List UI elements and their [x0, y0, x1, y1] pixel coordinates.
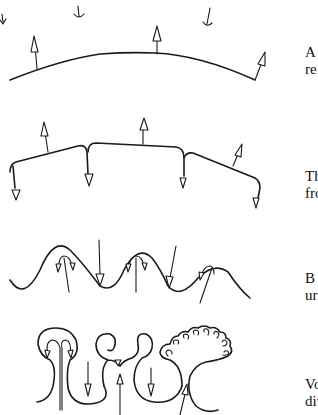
rising-split-arrow-icon [56, 256, 214, 303]
stage-2-cusped-surface: Th fro [0, 100, 318, 210]
stage-3-caption: B ur [305, 270, 318, 304]
stage-4-caption: Vo div [305, 376, 318, 410]
cusped-surface-drawing [0, 100, 318, 210]
caption-line: Th [305, 168, 318, 185]
incoming-arrow-icon [0, 6, 212, 25]
surface-curve [10, 146, 88, 174]
downward-arrow-icon [12, 174, 259, 208]
curl-icon [166, 329, 229, 356]
stage-1-smooth-surface: A re [0, 0, 318, 100]
smooth-surface-drawing [0, 0, 318, 100]
caption-line: B [305, 270, 318, 287]
caption-line: div [305, 393, 318, 410]
bubble-surface-drawing [0, 210, 318, 305]
surface-curve [10, 53, 255, 80]
mushroom-cap-3 [160, 326, 232, 411]
caption-line: fro [305, 185, 318, 202]
stage-2-caption: Th fro [305, 168, 318, 202]
caption-line: A [305, 44, 317, 61]
caption-line: re [305, 61, 317, 78]
outward-arrow-icon [41, 118, 242, 166]
stage-4-vortex-structures: Vo div [0, 300, 318, 415]
vortex-drawing [0, 300, 318, 415]
mushroom-cap-1 [37, 328, 106, 404]
stage-1-caption: A re [305, 44, 317, 78]
caption-line: Vo [305, 376, 318, 393]
stage-3-bubble-surface: B ur [0, 210, 318, 305]
